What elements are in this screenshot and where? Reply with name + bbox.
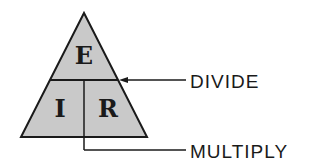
letter-r: R bbox=[98, 94, 119, 123]
divide-label: DIVIDE bbox=[190, 72, 259, 91]
letter-e: E bbox=[75, 41, 93, 70]
divide-arrowhead-icon bbox=[119, 77, 128, 83]
multiply-label: MULTIPLY bbox=[190, 142, 288, 161]
letter-i: I bbox=[54, 94, 65, 123]
